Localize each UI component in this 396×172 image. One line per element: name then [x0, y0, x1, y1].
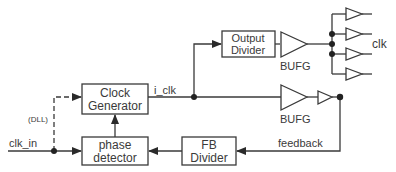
bufg-mid-icon [281, 85, 307, 110]
dll-label: (DLL) [28, 115, 48, 124]
dll-dashed-path [54, 97, 81, 151]
junction-dot [329, 51, 335, 57]
to-output-divider-wire [194, 44, 221, 97]
fanout-buffer-icon [346, 68, 362, 80]
feedback-label: feedback [278, 137, 323, 149]
output-divider-label-1: Output [231, 32, 264, 44]
output-divider-label-2: Divider [231, 44, 266, 56]
i-clk-label: i_clk [154, 84, 177, 96]
junction-dot [329, 31, 335, 37]
fanout-buffer-icon [346, 28, 362, 40]
junction-dot [329, 41, 335, 47]
fb-divider-label-2: Divider [190, 151, 227, 165]
fanout-buffer-icon [346, 8, 362, 20]
junction-dot [51, 148, 57, 154]
bufg-mid-label: BUFG [280, 113, 311, 125]
clk-output-label: clk [372, 37, 388, 51]
clock-generator-label-2: Generator [88, 99, 142, 113]
clk-in-label: clk_in [9, 137, 37, 149]
fanout-buffer-icon [346, 48, 362, 60]
clock-distribution-diagram: Clock Generator phase detector FB Divide… [0, 0, 396, 172]
fb-divider-label-1: FB [201, 138, 216, 152]
bufg-top-icon [281, 32, 307, 57]
junction-dot [191, 94, 197, 100]
bufg-top-label: BUFG [280, 60, 311, 72]
phase-detector-label-1: phase [99, 138, 132, 152]
small-buffer-icon [318, 91, 332, 104]
clock-generator-label-1: Clock [100, 86, 131, 100]
phase-detector-label-2: detector [93, 151, 136, 165]
junction-dot [337, 94, 343, 100]
